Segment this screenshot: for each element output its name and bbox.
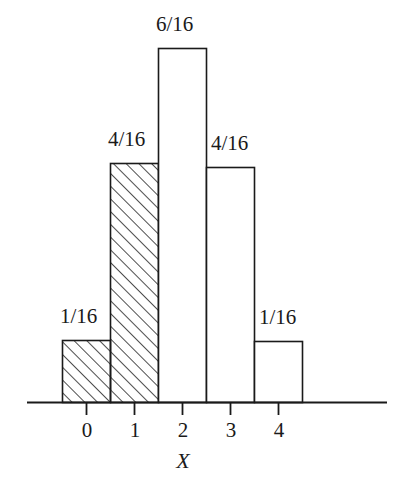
bar-value-label-0: 1/16 (60, 306, 97, 327)
x-axis-tick-label-2: 2 (168, 420, 198, 441)
bar-value-label-1: 4/16 (108, 129, 145, 150)
bar-1 (111, 164, 159, 403)
x-axis-title: X (163, 450, 203, 472)
x-axis-tick-label-4: 4 (264, 420, 294, 441)
bar-value-label-2: 6/16 (156, 14, 193, 35)
bar-2 (159, 49, 207, 403)
bar-value-label-4: 1/16 (259, 307, 296, 328)
x-axis-tick-label-3: 3 (216, 420, 246, 441)
histogram-plot (0, 0, 409, 490)
bar-4 (255, 342, 303, 403)
bar-3 (207, 168, 255, 403)
bar-0 (63, 341, 111, 403)
x-axis-tick-label-1: 1 (120, 420, 150, 441)
histogram-figure: 1/16 4/16 6/16 4/16 1/16 0 1 2 3 4 X (0, 0, 409, 490)
bar-value-label-3: 4/16 (211, 133, 248, 154)
x-axis-tick-label-0: 0 (72, 420, 102, 441)
